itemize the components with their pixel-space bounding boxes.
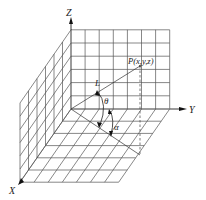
alpha-label: α [114, 122, 119, 132]
theta-label: θ [104, 96, 109, 106]
z-axis-arrow-icon [69, 17, 73, 24]
z-axis-label: Z [66, 7, 72, 18]
theta-arc [98, 92, 104, 125]
floor-grid-xy [20, 109, 170, 182]
vector-label: L [94, 78, 100, 88]
x-axis-label: X [8, 185, 16, 196]
left-wall-grid-xz [20, 30, 71, 182]
y-axis-label: Y [189, 104, 196, 115]
back-wall-grid-yz [71, 30, 170, 109]
coordinate-diagram: Z Y X L P(x,y,z) θ α [0, 0, 206, 200]
y-axis-arrow-icon [179, 107, 187, 111]
point-label: P(x,y,z) [127, 56, 154, 66]
x-axis-arrow-icon [18, 178, 24, 185]
floor-projection-line [71, 109, 140, 155]
